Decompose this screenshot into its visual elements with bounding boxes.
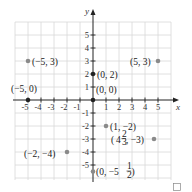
point-neg2-neg4: [65, 150, 70, 155]
svg-text:-2: -2: [82, 121, 89, 131]
point-neg5-3: [26, 59, 31, 64]
coordinate-plane: x y -5 -4 -3 -2 -1 1 2 3 4 5: [0, 0, 192, 192]
label-neg5-0: (−5, 0): [11, 84, 37, 95]
y-axis-label: y: [84, 6, 89, 16]
point-0-0: [91, 98, 96, 103]
label-0-0: (0, 0): [96, 85, 117, 96]
svg-text:1: 1: [85, 82, 89, 92]
svg-text:3: 3: [85, 56, 89, 66]
svg-text:-4: -4: [34, 102, 42, 112]
y-axis-arrow-icon: [91, 9, 96, 15]
svg-text:): ): [132, 167, 135, 178]
svg-text:, −3): , −3): [126, 135, 144, 146]
label-0-neg5half: (0, −5 1 2 ): [96, 161, 135, 180]
label-neg2-neg4: (−2, −4): [24, 149, 55, 160]
svg-text:-3: -3: [82, 134, 89, 144]
svg-text:-4: -4: [82, 147, 90, 157]
svg-text:1: 1: [104, 102, 108, 112]
svg-text:-1: -1: [82, 108, 89, 118]
point-neg5-0: [26, 98, 31, 103]
x-tick-labels: -5 -4 -3 -2 -1 1 2 3 4 5: [21, 102, 160, 112]
svg-text:3: 3: [130, 102, 134, 112]
point-0-neg5half: [91, 169, 96, 174]
point-labels: (−5, 3) (5, 3) (0, 2) (0, 0) (−5, 0) (1,…: [11, 57, 151, 180]
svg-text:-5: -5: [21, 102, 28, 112]
svg-text:2: 2: [85, 69, 89, 79]
svg-text:(: (: [111, 135, 114, 146]
label-0-2: (0, 2): [97, 70, 118, 81]
point-4two-thirds-neg3: [152, 137, 157, 142]
svg-text:(0, −5: (0, −5: [96, 167, 119, 178]
point-0-2: [91, 72, 96, 77]
svg-text:2: 2: [117, 102, 121, 112]
end-marker-box: [174, 184, 181, 191]
svg-text:5: 5: [156, 102, 160, 112]
point-1-neg2: [104, 124, 109, 129]
label-neg5-3: (−5, 3): [32, 57, 58, 68]
svg-text:5: 5: [85, 30, 89, 40]
x-axis-label: x: [175, 102, 180, 112]
svg-text:4: 4: [143, 102, 148, 112]
point-5-3: [156, 59, 161, 64]
label-5-3: (5, 3): [130, 57, 151, 68]
svg-text:-3: -3: [47, 102, 54, 112]
svg-text:-2: -2: [60, 102, 67, 112]
svg-text:-1: -1: [73, 102, 80, 112]
svg-text:4: 4: [116, 135, 121, 145]
svg-text:-5: -5: [82, 160, 89, 170]
